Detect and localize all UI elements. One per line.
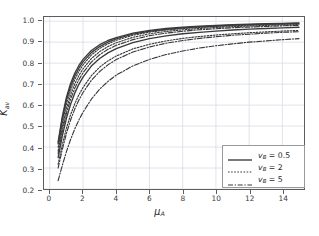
y-tick-label: 0.9	[8, 37, 34, 46]
y-tick-mark	[38, 20, 42, 21]
y-axis-label-subscript: av	[3, 102, 10, 110]
y-tick-label: 0.8	[8, 58, 34, 67]
x-tick-mark	[49, 190, 50, 194]
y-axis-label-base: K	[0, 109, 9, 115]
y-axis-label: Kav	[0, 102, 10, 116]
x-tick-label: 0	[39, 194, 59, 203]
x-tick-label: 8	[173, 194, 193, 203]
x-tick-mark	[183, 190, 184, 194]
legend-label: vB = 0.5	[258, 151, 290, 160]
x-tick-mark	[250, 190, 251, 194]
x-tick-label: 10	[206, 194, 226, 203]
x-tick-label: 14	[273, 194, 293, 203]
y-tick-label: 0.2	[8, 186, 34, 195]
legend-item[interactable]: vB = 0.5	[227, 149, 300, 161]
y-tick-mark	[38, 41, 42, 42]
legend-label-value: = 2	[266, 163, 282, 172]
y-tick-label: 0.3	[8, 164, 34, 173]
x-tick-mark	[82, 190, 83, 194]
x-axis-label-subscript: A	[160, 210, 164, 217]
legend-line-swatch	[227, 150, 253, 160]
legend-item[interactable]: vB = 5	[227, 174, 300, 186]
x-tick-mark	[116, 190, 117, 194]
x-tick-label: 4	[106, 194, 126, 203]
x-tick-mark	[283, 190, 284, 194]
y-tick-label: 0.7	[8, 79, 34, 88]
legend-box: vB = 0.5vB = 2vB = 5	[222, 145, 305, 188]
legend-label-value: = 5	[266, 175, 282, 184]
y-tick-label: 0.5	[8, 122, 34, 131]
y-tick-mark	[38, 190, 42, 191]
x-axis-label: μA	[0, 206, 319, 217]
y-tick-label: 1.0	[8, 16, 34, 25]
y-tick-mark	[38, 63, 42, 64]
y-tick-label: 0.6	[8, 101, 34, 110]
legend-label: vB = 2	[258, 163, 283, 172]
legend-label: vB = 5	[258, 175, 283, 184]
y-tick-mark	[38, 169, 42, 170]
x-tick-mark	[149, 190, 150, 194]
x-tick-label: 6	[139, 194, 159, 203]
y-tick-mark	[38, 84, 42, 85]
legend-item[interactable]: vB = 2	[227, 161, 300, 173]
chart-figure: 0.20.30.40.50.60.70.80.91.0 02468101214 …	[0, 0, 319, 236]
y-tick-label: 0.4	[8, 143, 34, 152]
legend-line-swatch	[227, 175, 253, 185]
x-tick-label: 2	[72, 194, 92, 203]
y-tick-mark	[38, 148, 42, 149]
y-tick-mark	[38, 126, 42, 127]
x-tick-label: 12	[240, 194, 260, 203]
legend-label-value: = 0.5	[266, 151, 290, 160]
x-tick-mark	[216, 190, 217, 194]
legend-line-swatch	[227, 162, 253, 172]
y-tick-mark	[38, 105, 42, 106]
